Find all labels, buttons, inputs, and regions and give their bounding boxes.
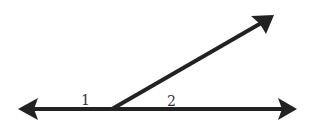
angle-1-label: 1 [81,92,90,108]
angle-diagram: 1 2 [0,0,313,133]
angle-2-label: 2 [167,93,176,109]
ray [112,22,263,109]
ray-arrowhead-icon [251,15,274,34]
